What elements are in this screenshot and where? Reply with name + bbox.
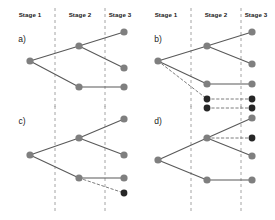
node-a-stage3-mid[interactable] [120, 64, 127, 71]
edge-c-stage2-lower-to-new [79, 178, 124, 193]
edge-d-stage2-upper-to-mid [207, 138, 252, 156]
edge-c-stage2-upper-to-mid [79, 138, 124, 155]
node-a-stage2-upper[interactable] [75, 42, 82, 49]
stage-header-b-3: Stage 3 [245, 11, 268, 18]
edge-c-root-to-stage2-upper [30, 138, 79, 155]
node-c-root[interactable] [26, 151, 33, 158]
edge-d-stage2-upper-to-top [207, 118, 252, 138]
edge-a-stage2-upper-to-top [79, 32, 124, 46]
node-b-stage2-lower[interactable] [203, 80, 210, 87]
edge-a-stage2-upper-to-mid [79, 46, 124, 68]
node-b-stage2-new[interactable] [204, 96, 211, 103]
panel-label-a: a) [18, 34, 26, 44]
node-d-stage3-lower[interactable] [248, 176, 255, 183]
node-b-stage3-mid[interactable] [248, 60, 255, 67]
node-b-root[interactable] [154, 57, 161, 64]
node-d-stage2-upper[interactable] [203, 134, 210, 141]
node-c-stage3-lower[interactable] [120, 174, 127, 181]
panel-label-c: c) [18, 116, 25, 126]
node-b-stage3-top[interactable] [248, 28, 255, 35]
stage-header-a-2: Stage 2 [69, 11, 92, 18]
scenario-tree-figure: Stage 1Stage 2Stage 3a)Stage 1Stage 2Sta… [0, 0, 275, 220]
panel-label-b: b) [154, 34, 162, 44]
stage-header-a-1: Stage 1 [19, 11, 42, 18]
node-c-stage2-upper[interactable] [75, 134, 82, 141]
node-d-root[interactable] [154, 156, 161, 163]
panel-a: Stage 1Stage 2Stage 3a) [18, 8, 132, 108]
edge-a-root-to-stage2-upper [30, 46, 79, 61]
panel-b: Stage 1Stage 2Stage 3b) [154, 8, 268, 108]
edge-d-root-to-stage2-lower [158, 160, 207, 180]
node-c-stage3-mid[interactable] [120, 151, 127, 158]
node-a-root[interactable] [26, 57, 33, 64]
edge-c-root-to-stage2-lower [30, 155, 79, 178]
stage-header-b-1: Stage 1 [155, 11, 178, 18]
node-c-stage3-top[interactable] [120, 115, 127, 122]
stage-header-a-3: Stage 3 [109, 11, 132, 18]
node-b-stage3-new[interactable] [249, 96, 256, 103]
edge-a-root-to-stage2-lower [30, 61, 79, 87]
node-d-stage3-top[interactable] [248, 114, 255, 121]
panel-d: d) [154, 105, 255, 212]
node-d-stage3-new-top[interactable] [249, 105, 256, 112]
edge-b-stage2-upper-to-mid [207, 46, 252, 64]
node-d-stage2-new[interactable] [204, 105, 211, 112]
node-d-stage3-new-upper[interactable] [249, 135, 256, 142]
panel-c: c) [18, 106, 127, 212]
edge-c-stage2-upper-to-top [79, 119, 124, 138]
node-b-stage2-upper[interactable] [203, 42, 210, 49]
scenario-tree-canvas: Stage 1Stage 2Stage 3a)Stage 1Stage 2Sta… [0, 0, 275, 220]
node-c-stage3-new[interactable] [121, 190, 128, 197]
node-a-stage3-bottom[interactable] [120, 83, 127, 90]
node-d-stage3-mid[interactable] [248, 152, 255, 159]
node-a-stage3-top[interactable] [120, 28, 127, 35]
node-b-stage3-lower[interactable] [248, 80, 255, 87]
panel-label-d: d) [154, 116, 162, 126]
node-c-stage2-lower[interactable] [75, 174, 82, 181]
node-a-stage2-lower[interactable] [75, 83, 82, 90]
edge-b-root-to-stage2-upper [158, 46, 207, 61]
edge-b-root-to-stage2-lower [158, 61, 207, 84]
edge-d-root-to-stage2-upper [158, 138, 207, 160]
stage-header-b-2: Stage 2 [205, 11, 228, 18]
node-d-stage2-lower[interactable] [203, 176, 210, 183]
edge-b-stage2-upper-to-top [207, 32, 252, 46]
